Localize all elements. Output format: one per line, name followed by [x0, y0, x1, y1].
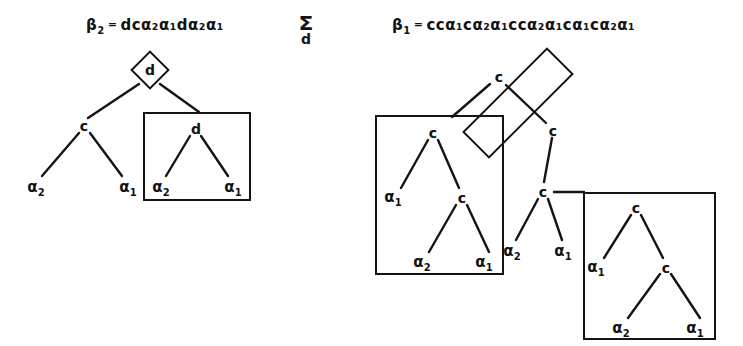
beta1-lhs: β — [392, 16, 403, 34]
node-right-boxL-c: c — [429, 125, 437, 141]
edge-right-midc-to-a1 — [548, 199, 562, 240]
sigma-subscript: d — [294, 32, 318, 46]
node-left-box-d: d — [191, 121, 201, 137]
node-right-mid-c: c — [539, 184, 547, 200]
edge-left-root-to-box — [160, 84, 199, 112]
beta2-lhs: β — [86, 16, 97, 34]
node-right-mid-alpha1: α1 — [554, 242, 571, 262]
node-right-boxR-c2: c — [662, 260, 670, 276]
node-right-mid-alpha2: α2 — [503, 242, 520, 262]
beta2-equals: = — [105, 18, 121, 31]
node-right-boxR-alpha2: α2 — [612, 319, 629, 339]
node-left-c: c — [80, 118, 88, 134]
node-right-boxL-c2: c — [458, 190, 466, 206]
node-right-rot-low-c: c — [549, 123, 557, 139]
edge-left-root-to-c — [88, 84, 139, 118]
figure-canvas: β2=dcα₂α₁dα₂α₁ Σ d β1=ccα₁cα₂α₁ccα₂α₁cα₁… — [0, 0, 743, 346]
node-left-alpha1: α1 — [119, 178, 136, 198]
beta2-lhs-sub: 2 — [97, 25, 104, 36]
node-right-boxR-alpha1: α1 — [587, 258, 604, 278]
beta1-equals: = — [411, 18, 427, 31]
node-right-boxL-alpha2: α2 — [413, 253, 430, 273]
node-right-boxR-c: c — [632, 200, 640, 216]
beta2-rhs: dcα₂α₁dα₂α₁ — [120, 16, 223, 34]
node-left-alpha2: α2 — [27, 178, 44, 198]
beta1-lhs-sub: 1 — [403, 25, 410, 36]
edge-left-c-to-a1 — [90, 133, 122, 176]
diamond-node-d-label: d — [145, 62, 155, 78]
node-left-box-alpha1: α1 — [224, 178, 241, 198]
node-right-boxR-alpha1b: α1 — [686, 319, 703, 339]
node-right-boxL-alpha1: α1 — [384, 188, 401, 208]
edge-left-c-to-a2 — [42, 133, 79, 176]
sigma-operator: Σ d — [294, 14, 318, 46]
node-left-box-alpha2: α2 — [152, 178, 169, 198]
sigma-glyph-icon: Σ — [292, 14, 320, 33]
edge-right-lowc-to-midc — [544, 138, 552, 182]
edge-right-midc-to-a2 — [516, 199, 538, 240]
node-right-rot-top-c: c — [495, 69, 503, 85]
equation-beta2: β2=dcα₂α₁dα₂α₁ — [86, 16, 224, 36]
node-right-boxL-alpha1b: α1 — [475, 253, 492, 273]
beta1-rhs: ccα₁cα₂α₁ccα₂α₁cα₁cα₂α₁ — [426, 16, 635, 34]
equation-beta1: β1=ccα₁cα₂α₁ccα₂α₁cα₁cα₂α₁ — [392, 16, 635, 36]
